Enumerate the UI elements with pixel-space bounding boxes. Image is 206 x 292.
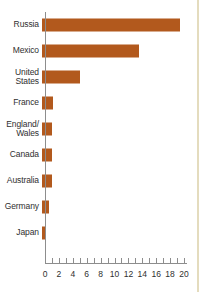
x-axis-tick-label: 0 bbox=[43, 269, 48, 279]
bar-track bbox=[42, 220, 206, 246]
x-axis-tick bbox=[101, 258, 102, 263]
bar-row: Australia bbox=[0, 168, 206, 194]
bar-row: Russia bbox=[0, 12, 206, 38]
bar bbox=[42, 149, 52, 162]
bar bbox=[42, 175, 52, 188]
x-axis-tick-label: 16 bbox=[151, 269, 160, 279]
x-axis-tick-label: 12 bbox=[124, 269, 133, 279]
x-axis-tick-label: 14 bbox=[138, 269, 147, 279]
bar bbox=[42, 123, 52, 136]
category-label: United States bbox=[0, 68, 42, 87]
x-axis-tick-label: 18 bbox=[165, 269, 174, 279]
bar-track bbox=[42, 12, 206, 38]
x-axis-tick bbox=[128, 258, 129, 263]
x-axis-tick bbox=[73, 258, 74, 263]
x-axis-tick-label: 20 bbox=[179, 269, 188, 279]
plot-area: RussiaMexicoUnited StatesFranceEngland/ … bbox=[0, 0, 206, 292]
x-axis-tick-label: 4 bbox=[70, 269, 75, 279]
x-axis-tick bbox=[135, 258, 136, 263]
bar-track bbox=[42, 116, 206, 142]
bar-track bbox=[42, 194, 206, 220]
x-axis-tick bbox=[66, 258, 67, 263]
category-label: Russia bbox=[0, 20, 42, 30]
bar bbox=[42, 71, 80, 84]
bar-track bbox=[42, 90, 206, 116]
bar-row: France bbox=[0, 90, 206, 116]
category-label: Germany bbox=[0, 202, 42, 212]
x-axis-tick bbox=[59, 258, 60, 263]
category-label: England/ Wales bbox=[0, 120, 42, 139]
y-axis-line bbox=[45, 12, 46, 263]
bar bbox=[42, 19, 180, 32]
x-axis-tick bbox=[45, 258, 46, 263]
bar bbox=[42, 97, 53, 110]
bar-chart: RussiaMexicoUnited StatesFranceEngland/ … bbox=[0, 0, 206, 292]
bar-row: Canada bbox=[0, 142, 206, 168]
x-axis-tick bbox=[156, 258, 157, 263]
bar-row: United States bbox=[0, 64, 206, 90]
bar-row: England/ Wales bbox=[0, 116, 206, 142]
bar-track bbox=[42, 142, 206, 168]
bar-track bbox=[42, 64, 206, 90]
x-axis-tick-label: 8 bbox=[98, 269, 103, 279]
category-label: Australia bbox=[0, 176, 42, 186]
x-axis-tick-label: 2 bbox=[57, 269, 62, 279]
x-axis-tick bbox=[177, 258, 178, 263]
x-axis-tick bbox=[80, 258, 81, 263]
bar-row: Japan bbox=[0, 220, 206, 246]
category-label: France bbox=[0, 98, 42, 108]
x-axis-tick bbox=[121, 258, 122, 263]
bar-row: Germany bbox=[0, 194, 206, 220]
category-label: Japan bbox=[0, 228, 42, 238]
x-axis-tick bbox=[108, 258, 109, 263]
category-label: Canada bbox=[0, 150, 42, 160]
x-axis-tick bbox=[184, 258, 185, 263]
bar-track bbox=[42, 38, 206, 64]
x-axis-line bbox=[45, 263, 187, 264]
x-axis-tick-label: 6 bbox=[84, 269, 89, 279]
x-axis-tick bbox=[163, 258, 164, 263]
bar-row: Mexico bbox=[0, 38, 206, 64]
page-edge-rule bbox=[197, 0, 199, 292]
x-axis-tick bbox=[52, 258, 53, 263]
x-axis-tick bbox=[142, 258, 143, 263]
x-axis-tick bbox=[87, 258, 88, 263]
x-axis-tick-label: 10 bbox=[110, 269, 119, 279]
bar-track bbox=[42, 168, 206, 194]
category-label: Mexico bbox=[0, 46, 42, 56]
x-axis-tick bbox=[170, 258, 171, 263]
x-axis-tick bbox=[149, 258, 150, 263]
bar bbox=[42, 45, 139, 58]
x-axis-tick bbox=[94, 258, 95, 263]
x-axis-tick bbox=[115, 258, 116, 263]
